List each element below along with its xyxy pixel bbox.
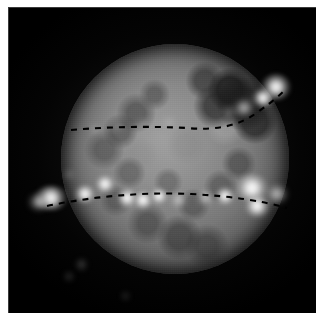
upper-dashed-arc <box>71 92 283 130</box>
image-plate <box>8 7 318 313</box>
lower-dashed-arc <box>47 194 287 209</box>
plate-margin-top <box>0 0 318 7</box>
plate-margin-right <box>316 0 318 316</box>
figure-frame <box>0 0 318 316</box>
dashed-curve-overlay <box>9 8 318 313</box>
plate-margin-left <box>0 0 8 316</box>
